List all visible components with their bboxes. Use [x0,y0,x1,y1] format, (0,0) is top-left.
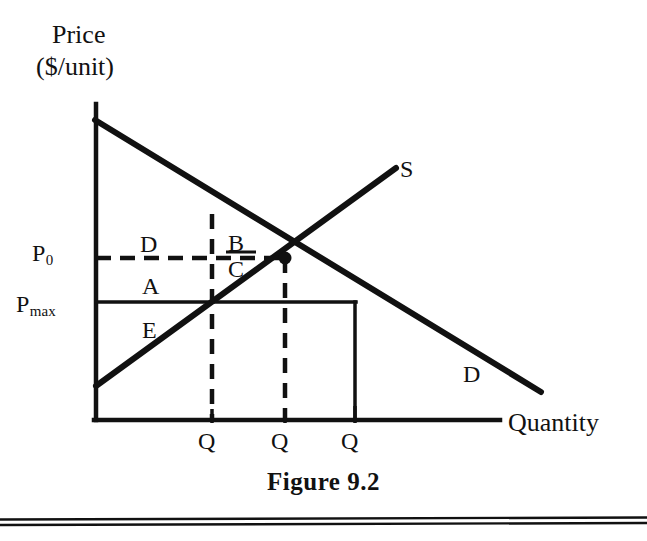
price-tick-base-pmax: P [16,291,29,318]
region-label-a: A [142,273,159,300]
demand-curve-label: D [463,362,480,386]
quantity-tick-label-q1: Q [198,428,215,455]
region-label-c: C [228,256,244,283]
price-tick-base-p0: P [32,240,45,267]
equilibrium-point-marker [279,252,292,265]
region-label-b: B [228,230,244,257]
supply-demand-diagram [0,0,647,541]
divider-line-lower [0,523,647,525]
quantity-tick-label-q2: Q [271,428,288,455]
figure-9-2: Price ($/unit) Quantity S D P 0 P max Q … [0,0,647,541]
region-label-e: E [142,317,157,344]
price-tick-subscript-p0: 0 [46,252,54,269]
bottom-divider-rule [0,516,647,528]
figure-caption: Figure 9.2 [0,468,647,496]
price-tick-subscript-pmax: max [30,303,56,320]
region-label-d: D [140,231,157,258]
price-tick-label-pmax: P max [16,291,55,318]
demand-curve [95,120,541,392]
quantity-tick-label-q3: Q [341,428,358,455]
supply-curve-label: S [400,157,413,181]
divider-line-upper [0,518,647,520]
y-axis-title-line1: Price [52,22,105,48]
y-axis-title-line2: ($/unit) [36,54,114,80]
price-tick-label-p0: P 0 [32,240,53,267]
x-axis-title: Quantity [508,410,599,436]
